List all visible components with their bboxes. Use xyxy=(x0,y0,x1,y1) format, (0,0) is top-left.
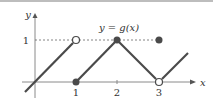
segment-4 xyxy=(162,53,188,79)
segment-1 xyxy=(25,43,73,92)
tick-label-x1: 1 xyxy=(73,87,79,98)
function-label: y = g(x) xyxy=(98,22,139,33)
segment-2 xyxy=(76,40,117,82)
graph: y x 1 1 2 3 y = g(x) xyxy=(0,0,213,107)
y-axis-arrow-icon xyxy=(33,13,38,18)
tick-label-y1: 1 xyxy=(23,35,29,46)
open-point-1-1 xyxy=(73,37,80,44)
closed-point-3-1 xyxy=(156,37,163,44)
x-axis-arrow-icon xyxy=(190,80,196,85)
x-axis-label: x xyxy=(200,77,206,88)
tick-label-x3: 3 xyxy=(156,87,162,98)
closed-point-2-1 xyxy=(114,37,121,44)
y-axis-label: y xyxy=(24,9,31,20)
closed-point-1-0 xyxy=(73,79,80,86)
segment-3 xyxy=(117,40,156,79)
tick-label-x2: 2 xyxy=(114,87,120,98)
open-point-3-0 xyxy=(156,79,163,86)
